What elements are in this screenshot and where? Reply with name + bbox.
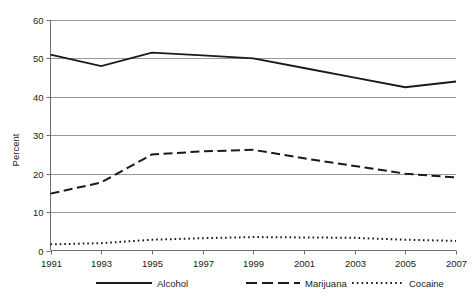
x-tick-label: 1999 bbox=[243, 258, 264, 269]
x-tick-label: 1997 bbox=[193, 258, 214, 269]
y-tick-label: 30 bbox=[33, 130, 44, 141]
chart-background bbox=[0, 0, 473, 298]
x-tick-label: 2007 bbox=[446, 258, 467, 269]
chart-canvas: 0102030405060 19911993199519971999200120… bbox=[0, 0, 473, 298]
y-axis-title: Percent bbox=[10, 133, 21, 166]
x-tick-label: 2003 bbox=[345, 258, 366, 269]
x-tick-label: 2001 bbox=[294, 258, 315, 269]
y-tick-label: 0 bbox=[38, 246, 43, 257]
y-tick-label: 20 bbox=[33, 169, 44, 180]
legend-label-cocaine: Cocaine bbox=[409, 278, 444, 289]
y-tick-label: 50 bbox=[33, 53, 44, 64]
y-tick-label: 60 bbox=[33, 15, 44, 26]
legend-label-alcohol: Alcohol bbox=[157, 278, 188, 289]
x-tick-label: 2005 bbox=[395, 258, 416, 269]
y-tick-label: 10 bbox=[33, 207, 44, 218]
y-tick-label: 40 bbox=[33, 92, 44, 103]
line-chart: 0102030405060 19911993199519971999200120… bbox=[0, 0, 473, 298]
x-tick-label: 1991 bbox=[41, 258, 62, 269]
legend-label-marijuana: Marijuana bbox=[305, 278, 347, 289]
x-tick-label: 1993 bbox=[91, 258, 112, 269]
x-tick-label: 1995 bbox=[142, 258, 163, 269]
